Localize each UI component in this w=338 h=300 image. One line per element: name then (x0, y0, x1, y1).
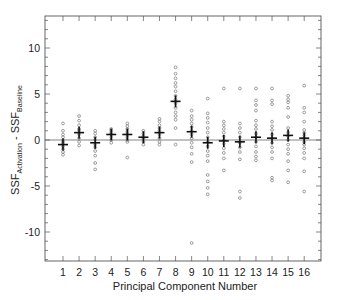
data-point (238, 87, 241, 90)
data-point (255, 99, 258, 102)
data-point (174, 72, 177, 75)
data-point (287, 127, 290, 130)
data-point (255, 124, 258, 127)
data-point (206, 131, 209, 134)
data-point (190, 122, 193, 125)
data-point (238, 122, 241, 125)
data-point (271, 151, 274, 154)
data-point (287, 106, 290, 109)
data-point (271, 120, 274, 123)
data-point (255, 109, 258, 112)
data-point (271, 146, 274, 149)
x-tick-label: 12 (234, 266, 246, 278)
x-axis-ticks: 12345678910111213141516 (60, 16, 310, 278)
y-title-sep: - (9, 133, 21, 143)
data-point (303, 151, 306, 154)
x-tick-label: 13 (250, 266, 262, 278)
data-point (206, 160, 209, 163)
data-point (126, 122, 129, 125)
data-point (190, 115, 193, 118)
data-point (206, 112, 209, 115)
data-point (126, 140, 129, 143)
data-point (126, 125, 129, 128)
data-point (287, 143, 290, 146)
data-point (94, 154, 97, 157)
x-tick-label: 1 (60, 266, 66, 278)
data-point (206, 97, 209, 100)
x-axis-title: Principal Component Number (113, 280, 258, 292)
y-tick-label: 0 (34, 134, 40, 146)
data-points (62, 66, 306, 245)
data-point (271, 128, 274, 131)
data-point (303, 128, 306, 131)
data-point (255, 87, 258, 90)
data-point (94, 168, 97, 171)
data-point (238, 158, 241, 161)
data-point (190, 141, 193, 144)
x-tick-label: 5 (124, 266, 130, 278)
data-point (174, 77, 177, 80)
plot-border (45, 16, 321, 261)
data-point (287, 181, 290, 184)
data-point (271, 103, 274, 106)
data-point (62, 151, 65, 154)
data-point (222, 120, 225, 123)
x-tick-label: 3 (92, 266, 98, 278)
data-point (303, 147, 306, 150)
data-point (94, 129, 97, 132)
data-point (78, 140, 81, 143)
data-point (255, 159, 258, 162)
data-point (287, 94, 290, 97)
y-title-sub1: Activation (16, 143, 23, 173)
data-point (238, 197, 241, 200)
x-tick-label: 11 (218, 266, 229, 278)
data-point (62, 133, 65, 136)
data-point (158, 120, 161, 123)
data-point (94, 150, 97, 153)
x-tick-label: 8 (173, 266, 179, 278)
data-point (62, 153, 65, 156)
data-point (222, 128, 225, 131)
data-point (271, 179, 274, 182)
data-point (255, 128, 258, 131)
data-point (158, 143, 161, 146)
data-point (190, 109, 193, 112)
y-tick-label: 5 (34, 88, 40, 100)
x-tick-label: 10 (202, 266, 214, 278)
data-point (142, 143, 145, 146)
x-tick-label: 2 (76, 266, 82, 278)
y-title-sub2: Baseline (16, 85, 23, 112)
data-point (174, 66, 177, 69)
data-point (303, 157, 306, 160)
data-point (206, 127, 209, 130)
data-point (238, 151, 241, 154)
y-title-main2: SSF (9, 112, 21, 134)
data-point (174, 143, 177, 146)
x-tick-label: 4 (108, 266, 114, 278)
data-point (158, 124, 161, 127)
data-point (222, 151, 225, 154)
data-point (158, 140, 161, 143)
data-point (287, 148, 290, 151)
data-point (287, 116, 290, 119)
data-point (287, 169, 290, 172)
data-point (190, 152, 193, 155)
data-point (78, 144, 81, 147)
data-point (222, 131, 225, 134)
data-point (255, 119, 258, 122)
data-point (255, 155, 258, 158)
data-point (255, 145, 258, 148)
y-title-main1: SSF (9, 173, 21, 195)
data-point (303, 190, 306, 193)
data-point (78, 115, 81, 118)
data-point (287, 160, 290, 163)
data-point (303, 84, 306, 87)
data-point (62, 129, 65, 132)
data-point (287, 101, 290, 104)
data-point (174, 85, 177, 88)
data-point (303, 120, 306, 123)
data-point (255, 104, 258, 107)
data-point (78, 119, 81, 122)
data-point (206, 154, 209, 157)
data-point (222, 147, 225, 150)
